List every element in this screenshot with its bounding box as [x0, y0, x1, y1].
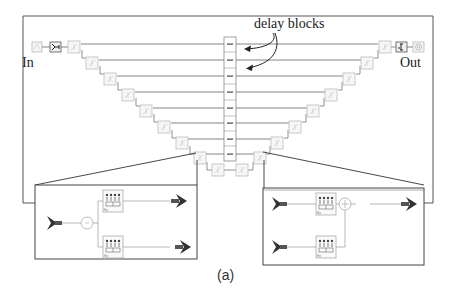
input-chain [32, 42, 68, 52]
sum-node-icon[interactable] [81, 217, 93, 229]
filter-block-icon[interactable] [316, 193, 336, 215]
split-block-icon[interactable] [212, 164, 224, 176]
bottom-blocks [212, 164, 248, 176]
split-block-icon[interactable] [158, 121, 170, 133]
combine-block-icon[interactable] [379, 41, 391, 53]
filter-block-icon[interactable] [103, 236, 123, 258]
split-block-icon[interactable] [86, 57, 98, 69]
left-inset [35, 185, 197, 259]
output-label: Out [400, 55, 421, 71]
split-block-icon[interactable] [122, 89, 134, 101]
combine-block-icon[interactable] [271, 137, 283, 149]
annotation-arrows [246, 33, 277, 68]
split-block-icon[interactable] [68, 41, 80, 53]
combine-block-icon[interactable] [325, 89, 337, 101]
split-block-icon[interactable] [194, 152, 206, 164]
split-block-icon[interactable] [140, 105, 152, 117]
filter-block-icon[interactable] [316, 236, 336, 258]
input-label: In [22, 55, 34, 71]
scope-icon[interactable] [413, 42, 424, 52]
output-chain [396, 42, 424, 52]
combine-block-icon[interactable] [361, 57, 373, 69]
split-block-icon[interactable] [104, 73, 116, 85]
adder-node-icon[interactable] [339, 198, 351, 210]
signal-flow-diagram: Ep [0, 0, 455, 300]
combine-block-icon[interactable] [236, 164, 248, 176]
delay-blocks-annotation: delay blocks [254, 16, 324, 32]
gain-icon[interactable] [396, 42, 407, 52]
arrowhead-icon [244, 46, 253, 72]
filter-block-icon[interactable] [103, 190, 123, 212]
figure-caption: (a) [217, 267, 234, 283]
source-icon[interactable] [32, 42, 42, 52]
right-inset [263, 188, 424, 265]
combine-block-icon[interactable] [343, 73, 355, 85]
gain-icon[interactable] [50, 42, 61, 52]
split-block-icon[interactable] [176, 137, 188, 149]
delay-column [224, 37, 236, 161]
combine-block-icon[interactable] [289, 121, 301, 133]
combine-block-icon[interactable] [307, 105, 319, 117]
